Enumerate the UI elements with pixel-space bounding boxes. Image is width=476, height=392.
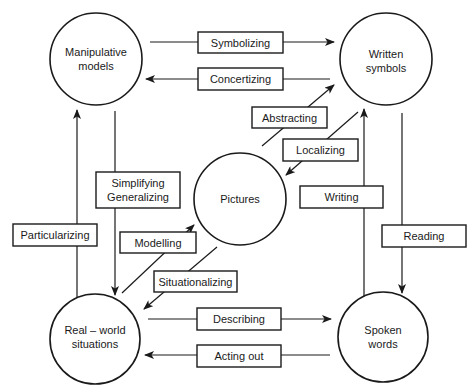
label-box-abstracting: Abstracting [252, 107, 327, 128]
node-pictures: Pictures [194, 153, 286, 245]
label-box-describing: Describing [197, 308, 281, 330]
edge-label: Concertizing [210, 73, 271, 85]
edge-label: Writing [324, 191, 358, 203]
edge-label: Abstracting [262, 112, 317, 124]
label-box-acting-out: Acting out [197, 345, 281, 367]
representation-translation-diagram: Manipulative models Written symbols Pict… [0, 0, 476, 392]
node-manipulative-models: Manipulative models [50, 13, 142, 105]
edge-label: Particularizing [20, 229, 89, 241]
label-box-situationalizing: Situationalizing [154, 271, 237, 292]
node-label-line2: words [367, 338, 398, 350]
edge-label: Situationalizing [159, 276, 233, 288]
label-box-writing: Writing [300, 186, 383, 208]
node-label-line1: Pictures [220, 193, 260, 205]
label-box-symbolizing: Symbolizing [198, 32, 283, 53]
node-label-line1: Spoken [364, 324, 401, 336]
label-box-modelling: Modelling [120, 232, 196, 253]
node-label-line2: situations [72, 338, 119, 350]
edge-label: Modelling [134, 237, 181, 249]
node-label-line1: Written [369, 48, 404, 60]
label-box-particularizing: Particularizing [13, 224, 97, 246]
node-real-world-situations: Real – world situations [50, 294, 140, 384]
edge-label-line2: Generalizing [107, 191, 169, 203]
edge-label-line1: Simplifying [111, 177, 164, 189]
node-label-line2: models [78, 60, 114, 72]
node-spoken-words: Spoken words [338, 292, 428, 382]
edge-label: Describing [213, 313, 265, 325]
edge-label: Localizing [296, 144, 345, 156]
node-label-line2: symbols [366, 62, 407, 74]
label-box-reading: Reading [382, 225, 466, 247]
node-written-symbols: Written symbols [340, 13, 432, 105]
edge-label: Symbolizing [211, 37, 270, 49]
node-label-line1: Real – world [64, 324, 125, 336]
edge-label: Reading [404, 230, 445, 242]
node-label-line1: Manipulative [65, 46, 127, 58]
label-box-localizing: Localizing [283, 139, 358, 161]
label-box-simplifying-generalizing: Simplifying Generalizing [96, 172, 180, 208]
edge-label: Acting out [215, 350, 264, 362]
label-box-concertizing: Concertizing [198, 68, 283, 90]
